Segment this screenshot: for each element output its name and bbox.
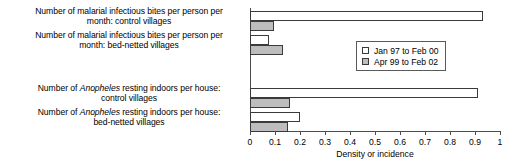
x-axis-tick — [325, 131, 326, 135]
x-axis-tick — [350, 131, 351, 135]
x-axis-tick — [300, 131, 301, 135]
category-label-line: control villages — [101, 93, 157, 103]
bar-anopheles-bednetted-apr99feb02 — [250, 122, 288, 132]
category-label-line: Number of malarial infectious bites per … — [35, 6, 223, 16]
legend-item-jan97feb00: Jan 97 to Feb 00 — [362, 45, 439, 56]
legend-swatch-icon — [362, 58, 369, 65]
x-axis-tick — [250, 131, 251, 135]
bar-malarial-bites-bednetted-jan97feb00 — [250, 35, 269, 45]
bar-chart: Number of malarial infectious bites per … — [0, 0, 508, 168]
category-label-line: Number of malarial infectious bites per … — [35, 30, 223, 40]
legend-swatch-icon — [362, 47, 369, 54]
category-label-text: Number of — [38, 83, 80, 93]
category-label-malarial-bites-control: Number of malarial infectious bites per … — [4, 6, 254, 27]
x-axis-tick — [500, 131, 501, 135]
x-axis-tick — [400, 131, 401, 135]
species-name-italic: Anopheles — [80, 107, 120, 117]
bar-malarial-bites-control-apr99feb02 — [250, 21, 274, 31]
category-label-text: resting indoors per house: — [120, 83, 220, 93]
legend-item-apr99feb02: Apr 99 to Feb 02 — [362, 56, 439, 67]
category-label-anopheles-control: Number of Anopheles resting indoors per … — [4, 83, 254, 104]
x-axis-tick — [425, 131, 426, 135]
category-label-text: Number of — [38, 107, 80, 117]
bar-anopheles-control-jan97feb00 — [250, 88, 478, 98]
x-axis-tick — [475, 131, 476, 135]
category-label-line: Number of Anopheles resting indoors per … — [38, 107, 221, 117]
legend-label: Jan 97 to Feb 00 — [374, 46, 439, 56]
x-axis-tick — [375, 131, 376, 135]
x-axis-title: Density or incidence — [250, 149, 500, 159]
legend: Jan 97 to Feb 00 Apr 99 to Feb 02 — [356, 41, 446, 71]
category-label-line: Number of Anopheles resting indoors per … — [38, 83, 221, 93]
x-axis-tick — [275, 131, 276, 135]
category-label-text: resting indoors per house: — [120, 107, 220, 117]
category-label-line: month: bed-netted villages — [79, 40, 179, 50]
x-axis-tick-label: 1 — [485, 137, 508, 147]
bar-anopheles-bednetted-jan97feb00 — [250, 112, 300, 122]
bar-malarial-bites-bednetted-apr99feb02 — [250, 45, 283, 55]
bar-malarial-bites-control-jan97feb00 — [250, 11, 483, 21]
legend-label: Apr 99 to Feb 02 — [374, 57, 438, 67]
species-name-italic: Anopheles — [80, 83, 120, 93]
category-label-line: bed-netted villages — [93, 117, 164, 127]
category-label-malarial-bites-bednetted: Number of malarial infectious bites per … — [4, 30, 254, 51]
x-axis-tick — [450, 131, 451, 135]
category-label-anopheles-bednetted: Number of Anopheles resting indoors per … — [4, 107, 254, 128]
category-label-line: month: control villages — [87, 16, 171, 26]
bar-anopheles-control-apr99feb02 — [250, 98, 290, 108]
